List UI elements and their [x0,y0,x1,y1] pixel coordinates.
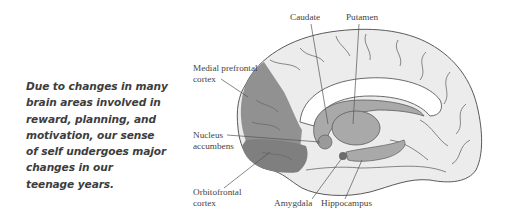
nucleus-accumbens-region [318,135,332,149]
label-caudate: Caudate [290,12,320,23]
label-orbitofrontal-cortex: Orbitofrontal cortex [193,187,241,209]
label-amygdala: Amygdala [274,198,312,209]
label-text: Medial prefrontal [193,63,258,74]
orbitofrontal-region [242,139,308,173]
label-text: Nucleus [193,130,234,141]
brain-diagram [0,0,510,223]
label-text: cortex [193,74,258,85]
label-text: Hippocampus [321,198,372,209]
label-hippocampus: Hippocampus [321,198,372,209]
label-putamen: Putamen [346,12,378,23]
label-nucleus-accumbens: Nucleus accumbens [193,130,234,152]
amygdala-region [339,152,347,160]
label-text: Orbitofrontal [193,187,241,198]
label-text: accumbens [193,141,234,152]
orbitofrontal-leader [224,152,270,188]
label-text: Putamen [346,12,378,23]
label-text: Amygdala [274,198,312,209]
label-text: Caudate [290,12,320,23]
label-medial-prefrontal-cortex: Medial prefrontal cortex [193,63,258,85]
putamen-region [332,111,380,145]
label-text: cortex [193,198,241,209]
